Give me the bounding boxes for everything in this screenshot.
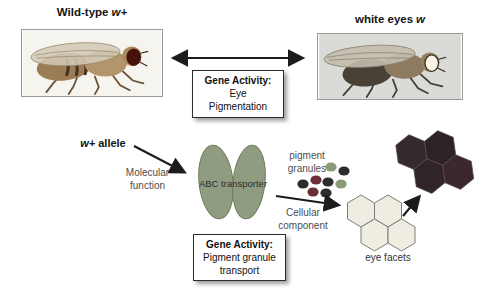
granule-dot — [320, 188, 331, 197]
molecular-function-line2: function — [115, 179, 180, 192]
molecular-function-line1: Molecular — [115, 166, 180, 179]
allele-word: allele — [98, 137, 126, 149]
gene-activity-box-pigmentation: Gene Activity: Eye Pigmentation — [192, 70, 284, 118]
allele-label: w+allele — [63, 137, 143, 149]
granule-dot — [310, 175, 321, 184]
granule-dot — [297, 179, 308, 188]
gene-activity-line: transport — [194, 265, 285, 278]
abc-transporter-label: ABC transporter — [196, 178, 270, 189]
bio-diagram: Wild-typew+ white eyesw — [0, 0, 485, 302]
allele-gene: w+ — [80, 137, 95, 149]
granule-dot — [322, 177, 333, 186]
pigment-granules-line2: granules — [277, 162, 337, 175]
pigmented-facets-arrow — [403, 197, 419, 216]
granule-dot — [335, 179, 346, 188]
gene-activity-title: Gene Activity: — [193, 75, 283, 88]
cellular-component-line2: component — [270, 219, 336, 232]
cellular-component-label: Cellular component — [270, 206, 336, 232]
pigment-granules-line1: pigment — [277, 149, 337, 162]
eye-facets-cluster — [348, 195, 416, 251]
gene-activity-line: Eye — [193, 88, 283, 101]
molecular-function-label: Molecular function — [115, 166, 180, 192]
cellular-component-arrow — [276, 196, 338, 205]
gene-activity-title: Gene Activity: — [194, 239, 285, 252]
granule-dot — [307, 187, 318, 196]
gene-activity-line: Pigmentation — [193, 101, 283, 114]
granule-dot — [338, 166, 349, 175]
gene-activity-box-transport: Gene Activity: Pigment granule transport — [193, 234, 286, 281]
gene-activity-line: Pigment granule — [194, 252, 285, 265]
cellular-component-line1: Cellular — [270, 206, 336, 219]
pigment-granules-label: pigment granules — [277, 149, 337, 175]
pigmented-facets-cluster — [395, 127, 475, 198]
eye-facets-label: eye facets — [357, 252, 419, 263]
